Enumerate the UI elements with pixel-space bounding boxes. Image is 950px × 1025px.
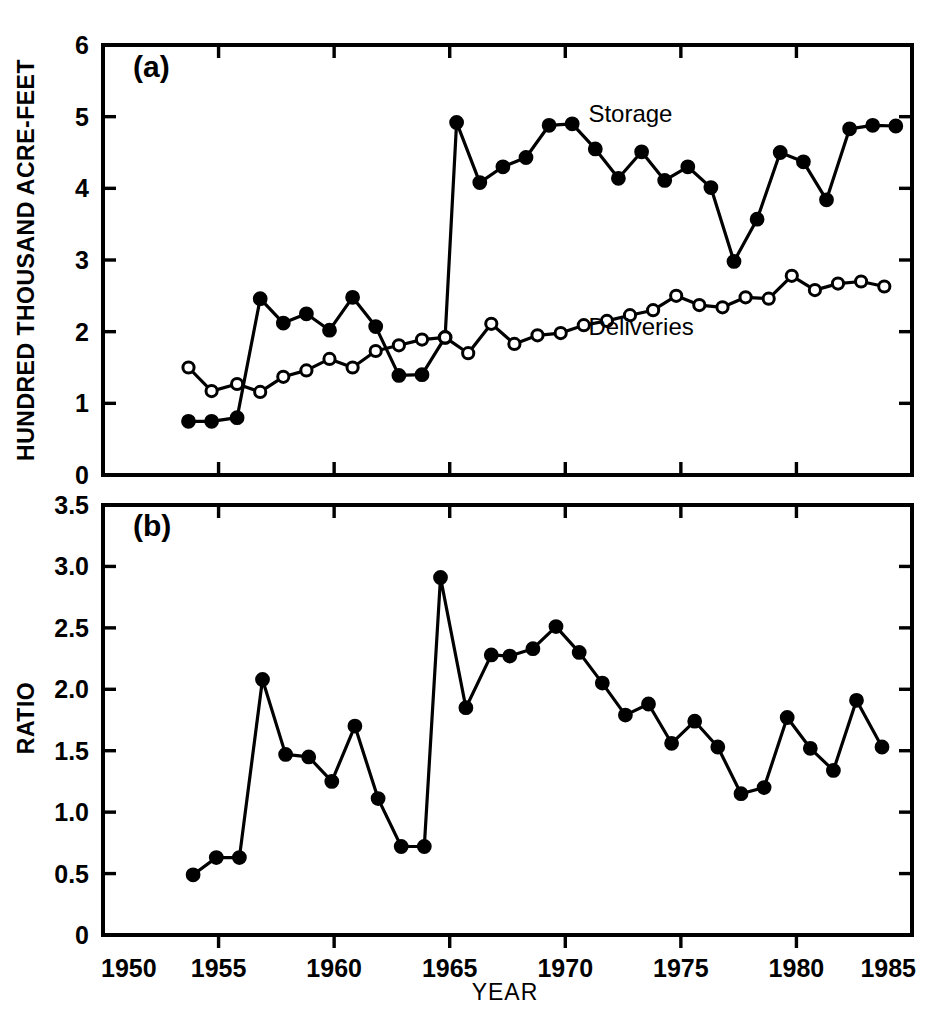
data-point-ratio: [325, 775, 338, 788]
data-point-deliveries: [255, 386, 266, 397]
x-tick-label: 1985: [860, 954, 916, 982]
data-point-ratio: [665, 737, 678, 750]
series-line-ratio: [193, 578, 882, 875]
panel-b-x-ticks: [219, 505, 797, 948]
data-point-deliveries: [509, 338, 520, 349]
data-point-ratio: [503, 650, 516, 663]
panel-a-y-ticks: [103, 117, 912, 404]
data-point-storage: [820, 193, 833, 206]
data-point-storage: [612, 172, 625, 185]
data-point-ratio: [596, 677, 609, 690]
data-point-ratio: [395, 840, 408, 853]
data-point-ratio: [758, 781, 771, 794]
data-point-storage: [205, 415, 218, 428]
data-point-deliveries: [370, 345, 381, 356]
data-point-storage: [889, 120, 902, 133]
data-point-ratio: [619, 709, 632, 722]
data-point-ratio: [418, 840, 431, 853]
two-panel-timeseries-figure: 0123456 (a) Storage Deliveries HUNDRED T…: [0, 0, 950, 1025]
data-point-ratio: [279, 748, 292, 761]
data-point-deliveries: [809, 285, 820, 296]
panel-a-axes: [103, 45, 912, 475]
y-tick-label: 3.5: [54, 491, 89, 519]
data-point-ratio: [460, 701, 473, 714]
plot-frame: [103, 45, 912, 475]
data-point-storage: [543, 119, 556, 132]
data-point-ratio: [550, 620, 563, 633]
data-point-ratio: [711, 741, 724, 754]
data-point-ratio: [256, 673, 269, 686]
data-point-ratio: [876, 741, 889, 754]
panel-b-y-tick-labels: 00.51.01.52.02.53.03.5: [54, 491, 89, 949]
data-point-ratio: [573, 646, 586, 659]
data-point-ratio: [372, 792, 385, 805]
data-point-deliveries: [183, 362, 194, 373]
data-point-ratio: [642, 698, 655, 711]
data-point-deliveries: [440, 332, 451, 343]
panel-b-tag: (b): [133, 509, 171, 542]
data-point-storage: [277, 317, 290, 330]
data-point-ratio: [781, 711, 794, 724]
data-point-deliveries: [717, 302, 728, 313]
x-axis-title: YEAR: [472, 979, 539, 1005]
data-point-storage: [566, 117, 579, 130]
panel-b: 00.51.01.52.02.53.03.5 19501955196019651…: [13, 491, 916, 1005]
data-point-deliveries: [763, 293, 774, 304]
data-point-storage: [473, 176, 486, 189]
y-tick-label: 1.5: [54, 737, 89, 765]
data-point-storage: [416, 368, 429, 381]
data-point-storage: [658, 174, 671, 187]
y-tick-label: 2.5: [54, 614, 89, 642]
data-point-ratio: [434, 571, 447, 584]
data-point-deliveries: [206, 386, 217, 397]
data-point-storage: [681, 160, 694, 173]
x-tick-label: 1965: [422, 954, 478, 982]
data-point-deliveries: [278, 371, 289, 382]
y-tick-label: 3: [75, 246, 89, 274]
data-point-ratio: [735, 787, 748, 800]
data-point-deliveries: [324, 353, 335, 364]
data-point-storage: [520, 151, 533, 164]
x-tick-label: 1950: [101, 954, 157, 982]
data-point-storage: [751, 213, 764, 226]
data-point-deliveries: [671, 290, 682, 301]
panel-a-tag: (a): [133, 50, 170, 83]
panel-b-y-axis-title: RATIO: [13, 682, 39, 754]
y-tick-label: 0.5: [54, 860, 89, 888]
data-point-storage: [323, 324, 336, 337]
panel-b-x-tick-labels: 19501955196019651970197519801985: [101, 954, 916, 982]
data-point-deliveries: [856, 276, 867, 287]
data-point-storage: [635, 145, 648, 158]
data-point-deliveries: [232, 378, 243, 389]
data-point-ratio: [688, 715, 701, 728]
data-point-deliveries: [416, 334, 427, 345]
data-point-deliveries: [301, 365, 312, 376]
data-point-ratio: [804, 742, 817, 755]
x-tick-label: 1970: [537, 954, 593, 982]
panel-a-x-ticks: [219, 45, 797, 475]
data-point-storage: [705, 181, 718, 194]
data-point-deliveries: [740, 292, 751, 303]
data-point-ratio: [233, 851, 246, 864]
data-point-storage: [450, 116, 463, 129]
x-tick-label: 1960: [306, 954, 362, 982]
data-point-ratio: [349, 720, 362, 733]
data-point-ratio: [527, 642, 540, 655]
figure-root: 0123456 (a) Storage Deliveries HUNDRED T…: [0, 0, 950, 1025]
data-point-storage: [866, 119, 879, 132]
data-point-deliveries: [832, 278, 843, 289]
data-point-storage: [497, 160, 510, 173]
data-point-deliveries: [347, 362, 358, 373]
series-label-deliveries: Deliveries: [588, 313, 693, 340]
data-point-storage: [843, 122, 856, 135]
y-tick-label: 1: [75, 389, 89, 417]
data-point-deliveries: [463, 348, 474, 359]
y-tick-label: 3.0: [54, 552, 89, 580]
data-point-storage: [774, 146, 787, 159]
x-tick-label: 1975: [653, 954, 709, 982]
data-point-storage: [369, 320, 382, 333]
data-point-ratio: [187, 868, 200, 881]
x-tick-label: 1955: [191, 954, 247, 982]
data-point-storage: [346, 291, 359, 304]
data-point-deliveries: [786, 270, 797, 281]
